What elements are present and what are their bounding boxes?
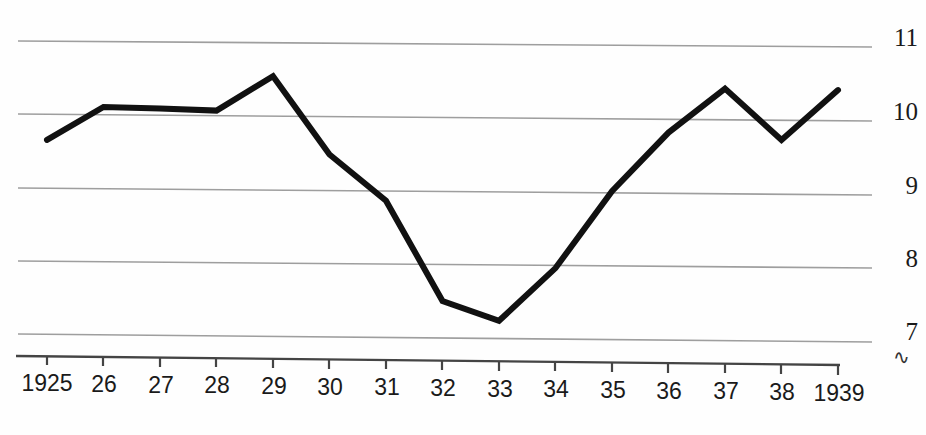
y-tick-label-8: 8 — [878, 245, 918, 273]
axis-break-icon: ∿ — [893, 345, 910, 369]
x-tick-label-34: 34 — [543, 376, 569, 403]
y-tick-label-9: 9 — [878, 172, 918, 200]
x-tick-label-27: 27 — [148, 372, 174, 399]
gridline-10 — [18, 114, 872, 121]
x-tick-label-30: 30 — [317, 374, 343, 401]
x-tick-label-28: 28 — [204, 372, 230, 399]
x-tick-label-26: 26 — [91, 371, 117, 398]
x-tick-label-1939: 1939 — [813, 380, 864, 407]
line-chart-svg — [0, 0, 926, 435]
data-line-series-1 — [47, 76, 838, 321]
x-tick-label-36: 36 — [656, 378, 682, 405]
x-axis — [16, 356, 840, 375]
y-tick-label-7: 7 — [878, 318, 918, 346]
gridline-11 — [18, 41, 872, 47]
gridline-9 — [18, 188, 872, 195]
x-axis-line — [16, 356, 840, 365]
x-tick-label-38: 38 — [769, 379, 795, 406]
x-tick-label-29: 29 — [261, 373, 287, 400]
y-tick-label-11: 11 — [878, 24, 918, 52]
x-tick-label-32: 32 — [430, 375, 456, 402]
x-tick-label-1925: 1925 — [21, 370, 72, 397]
y-tick-label-10: 10 — [878, 98, 918, 126]
x-tick-label-35: 35 — [600, 377, 626, 404]
chart-container: 11 10 9 8 7 ∿ 1925 26 27 28 29 30 31 32 … — [0, 0, 926, 435]
gridline-8 — [18, 261, 872, 268]
x-tick-label-31: 31 — [374, 374, 400, 401]
gridline-7 — [18, 334, 872, 342]
x-tick-label-37: 37 — [713, 378, 739, 405]
gridlines — [18, 41, 872, 342]
x-tick-label-33: 33 — [487, 376, 513, 403]
